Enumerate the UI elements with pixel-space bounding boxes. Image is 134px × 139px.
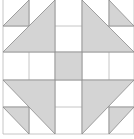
bottom-right-small-triangle xyxy=(109,107,134,134)
top-left-small-triangle xyxy=(3,0,29,26)
bottom-left-small-triangle xyxy=(3,107,29,134)
top-right-small-triangle xyxy=(109,0,134,26)
shaded-shapes xyxy=(3,0,134,134)
quilt-block-diagram xyxy=(0,0,134,139)
center-square xyxy=(55,52,82,80)
